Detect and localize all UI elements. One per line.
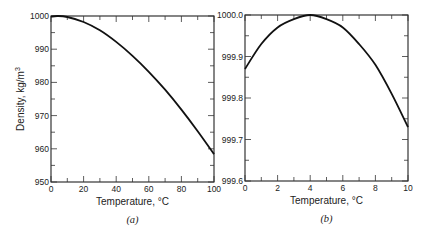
- y-tick-label: 999.8: [222, 93, 244, 103]
- y-tick-label: 990: [35, 44, 49, 54]
- panel-label-b: (b): [320, 213, 333, 225]
- density-charts: 020406080100 9509609709809901000 Tempera…: [0, 0, 428, 235]
- x-tick-label: 4: [308, 183, 313, 193]
- y-tick-label: 999.7: [222, 135, 244, 145]
- x-axis-label-a: Temperature, °C: [96, 196, 169, 207]
- chart-panel-b: 0246810 999.6999.7999.8999.91000.0 Tempe…: [217, 10, 413, 225]
- x-tick-label: 100: [207, 184, 221, 194]
- tick-marks-b: [245, 15, 408, 181]
- y-tick-label: 970: [35, 111, 49, 121]
- panel-label-a: (a): [126, 214, 139, 226]
- y-axis-label-a: Density, kg/m3: [14, 67, 26, 131]
- chart-panel-a: 020406080100 9509609709809901000 Tempera…: [14, 11, 221, 226]
- x-tick-labels-a: 020406080100: [49, 184, 222, 194]
- x-axis-label-b: Temperature, °C: [290, 195, 363, 206]
- x-tick-label: 20: [79, 184, 89, 194]
- density-curve-b: [245, 15, 408, 127]
- x-tick-labels-b: 0246810: [243, 183, 413, 193]
- x-tick-label: 40: [111, 184, 121, 194]
- x-tick-label: 0: [243, 183, 248, 193]
- x-tick-label: 2: [275, 183, 280, 193]
- y-tick-label: 960: [35, 144, 49, 154]
- x-tick-label: 10: [403, 183, 413, 193]
- x-tick-label: 60: [144, 184, 154, 194]
- x-tick-label: 0: [49, 184, 54, 194]
- y-tick-label: 1000.0: [217, 10, 243, 20]
- plot-area-a: [51, 16, 214, 182]
- x-tick-label: 80: [177, 184, 187, 194]
- tick-marks-a: [51, 16, 214, 182]
- y-tick-label: 999.6: [222, 176, 244, 186]
- x-tick-label: 6: [340, 183, 345, 193]
- y-tick-label: 1000: [30, 11, 49, 21]
- y-tick-labels-b: 999.6999.7999.8999.91000.0: [217, 10, 243, 186]
- y-tick-label: 999.9: [222, 52, 244, 62]
- plot-area-b: [245, 15, 408, 181]
- y-tick-label: 950: [35, 177, 49, 187]
- x-tick-label: 8: [373, 183, 378, 193]
- y-tick-labels-a: 9509609709809901000: [30, 11, 49, 187]
- density-curve-a: [51, 16, 214, 154]
- y-tick-label: 980: [35, 77, 49, 87]
